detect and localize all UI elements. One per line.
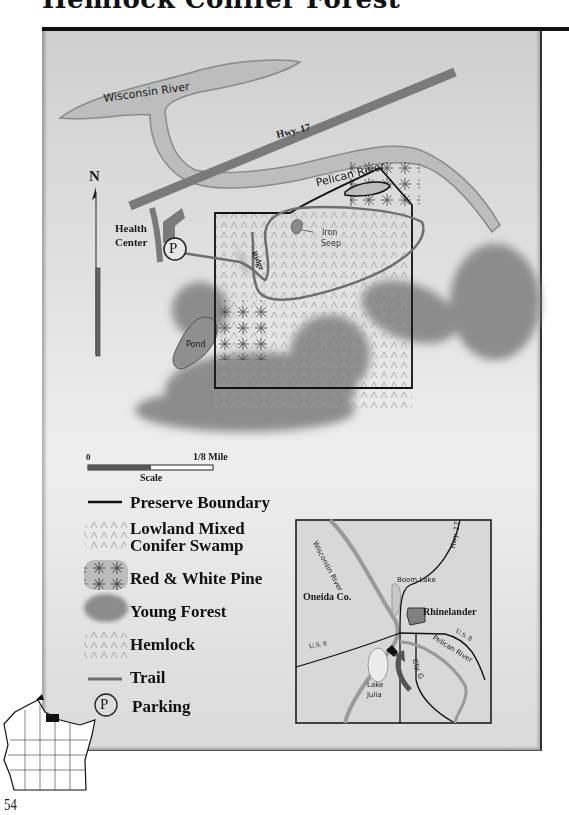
legend-pine-symbol (84, 560, 128, 590)
legend-trail: Trail (130, 669, 166, 686)
legend-hemlock: Hemlock (130, 636, 195, 653)
pine-area-sw (213, 300, 273, 360)
legend-lowland-line1: Lowland Mixed (130, 520, 245, 537)
label-pond: Pond (186, 340, 206, 349)
north-arrow (92, 187, 100, 356)
legend-parking-glyph: P (100, 696, 108, 713)
legend-lowland-line2: Conifer Swamp (130, 537, 244, 554)
label-center: Center (115, 236, 147, 248)
inset-label-julia: Julia (367, 691, 382, 699)
label-north: N (89, 168, 100, 185)
legend-lowland-swamp-symbol (84, 520, 128, 550)
legend-young-forest: Young Forest (130, 603, 227, 620)
legend-young-forest-symbol (84, 594, 128, 622)
label-iron: Iron (322, 228, 337, 237)
inset-locator-map (296, 520, 491, 723)
scale-caption: Scale (140, 472, 162, 483)
scale-bar (88, 465, 213, 470)
parking-label: P (169, 240, 177, 257)
inset-label-boom-lake: Boom Lake (397, 576, 436, 584)
wisconsin-state-locator (4, 694, 95, 790)
label-health: Health (115, 222, 147, 234)
health-center-road (152, 208, 160, 262)
preserve-map (0, 0, 569, 815)
inset-label-oneida-co: Oneida Co. (303, 591, 351, 602)
inset-label-lake: Lake (367, 681, 383, 689)
label-seep: Seep (321, 239, 341, 248)
legend-red-white-pine: Red & White Pine (130, 570, 262, 587)
page-number: 54 (4, 796, 17, 814)
legend-preserve-boundary: Preserve Boundary (130, 494, 270, 511)
legend-parking: Parking (132, 698, 191, 715)
legend-hemlock-symbol (84, 632, 128, 662)
scale-end-label: 1/8 Mile (193, 451, 228, 462)
scale-start-label: 0 (86, 452, 91, 462)
inset-label-rhinelander: Rhinelander (423, 606, 476, 617)
